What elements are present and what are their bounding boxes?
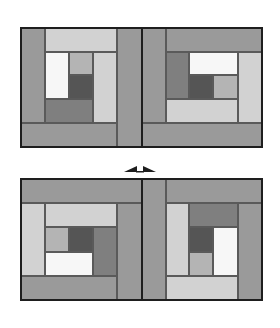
- quilt-patch-light: [45, 203, 117, 227]
- quilt-patch-medium: [166, 28, 262, 52]
- quilt-patch-medium: [117, 203, 142, 300]
- quilt-patch-medium: [166, 179, 262, 203]
- quilt-patch-light-gray: [213, 75, 238, 99]
- quilt-patch-medium: [21, 28, 45, 123]
- quilt-patch-medium: [21, 179, 142, 203]
- quilt-patch-medium: [238, 203, 262, 300]
- quilt-patch-white: [213, 227, 238, 276]
- quilt-patch-white: [45, 52, 69, 99]
- quilt-patch-mid-dark: [166, 52, 189, 99]
- quilt-patch-light-gray: [69, 52, 93, 75]
- quilt-patch-medium: [21, 276, 117, 300]
- quilt-patch-mid-dark: [189, 203, 238, 227]
- quilt-patch-white: [45, 252, 93, 276]
- quilt-patch-light: [93, 52, 117, 123]
- quilt-patch-white: [189, 52, 238, 75]
- quilt-patch-mid-dark: [93, 227, 117, 276]
- quilt-patch-light: [21, 203, 45, 276]
- quilt-patch-light-gray: [45, 227, 69, 252]
- quilt-patch-light: [166, 276, 238, 300]
- double-arrow-icon: [124, 161, 156, 175]
- quilt-patch-light: [238, 52, 262, 123]
- block-divider-line: [141, 27, 143, 148]
- quilt-patch-medium: [142, 179, 166, 300]
- quilt-patch-dark: [189, 75, 213, 99]
- quilt-patch-medium: [117, 28, 142, 147]
- quilt-patch-mid-dark: [45, 99, 93, 123]
- quilt-patch-light: [45, 28, 117, 52]
- quilt-patch-light: [166, 203, 189, 276]
- quilt-patch-medium: [21, 123, 117, 147]
- block-divider-line: [141, 178, 143, 301]
- quilt-patch-medium: [142, 123, 262, 147]
- quilt-patch-medium: [142, 28, 166, 123]
- quilt-patch-dark: [189, 227, 213, 252]
- quilt-patch-light: [166, 99, 238, 123]
- quilt-patch-dark: [69, 75, 93, 99]
- quilt-patch-dark: [69, 227, 93, 252]
- quilt-patch-light-gray: [189, 252, 213, 276]
